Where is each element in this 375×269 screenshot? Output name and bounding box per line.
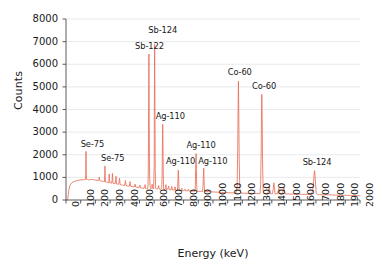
- y-tick-label: 0: [14, 195, 58, 205]
- y-tick-label: 1000: [14, 172, 58, 182]
- peak-label: Ag-110: [156, 111, 185, 121]
- x-tick-label: 300: [114, 189, 125, 207]
- x-tick-label: 900: [202, 189, 213, 207]
- x-tick-label: 1300: [261, 183, 272, 207]
- x-tick-label: 1900: [349, 183, 360, 207]
- peak-label: Ag-110: [166, 156, 195, 166]
- x-tick-label: 1000: [217, 183, 228, 207]
- x-tick-label: 1700: [320, 183, 331, 207]
- x-tick-label: 1800: [335, 183, 346, 207]
- x-tick-label: 0: [70, 201, 81, 207]
- x-tick-label: 1100: [232, 183, 243, 207]
- x-tick-label: 800: [188, 189, 199, 207]
- y-tick-label: 2000: [14, 150, 58, 160]
- peak-label: Se-75: [81, 139, 104, 149]
- peak-label: Sb-124: [148, 25, 177, 35]
- peak-label: Sb-122: [135, 41, 164, 51]
- x-tick-label: 1500: [291, 183, 302, 207]
- x-tick-label: 400: [129, 189, 140, 207]
- x-tick-label: 1600: [305, 183, 316, 207]
- peak-label: Sb-124: [303, 157, 332, 167]
- y-axis-ticks: 010002000300040005000600070008000: [12, 0, 58, 269]
- spectrum-line: [67, 44, 360, 200]
- peak-label: Co-60: [228, 67, 252, 77]
- y-tick-label: 7000: [14, 37, 58, 47]
- x-tick-label: 700: [173, 189, 184, 207]
- y-tick-label: 8000: [14, 14, 58, 24]
- x-tick-label: 600: [158, 189, 169, 207]
- x-axis-label: Energy (keV): [66, 247, 360, 260]
- x-tick-label: 100: [85, 189, 96, 207]
- x-tick-label: 500: [144, 189, 155, 207]
- x-tick-label: 2000: [364, 183, 375, 207]
- peak-label: Se-75: [101, 153, 124, 163]
- y-axis-label: Counts: [12, 51, 25, 131]
- peak-label: Ag-110: [187, 140, 216, 150]
- x-tick-label: 1200: [246, 183, 257, 207]
- x-tick-label: 200: [99, 189, 110, 207]
- peak-label: Co-60: [252, 81, 276, 91]
- spectrum-figure: 010002000300040005000600070008000 Counts…: [0, 0, 375, 269]
- peak-label: Ag-110: [198, 156, 227, 166]
- x-tick-label: 1400: [276, 183, 287, 207]
